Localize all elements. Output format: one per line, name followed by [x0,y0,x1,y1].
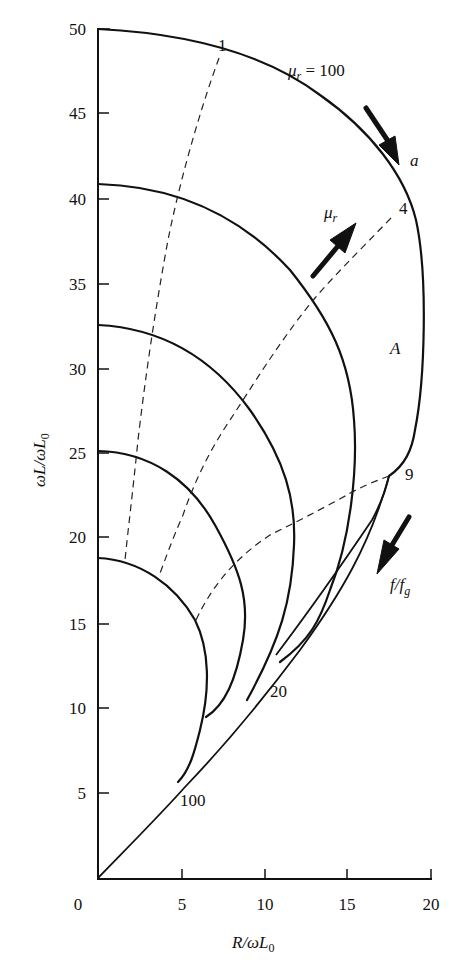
x-tick-label: 5 [178,895,187,914]
y-tick-label: 45 [69,104,86,123]
x-tick-label: 20 [423,895,440,914]
y-tick-label: 30 [69,360,86,379]
label-1: 1 [218,36,227,55]
dashed-f-fg-9 [196,476,389,620]
y-axis-title: ωL/ωL0 [30,433,52,487]
arrow-a [366,108,399,165]
y-tick-label: 40 [69,190,86,209]
y-tick-label: 20 [69,528,86,547]
x-axis-title: R/ωL0 [231,933,275,955]
y-tick-label: 15 [69,615,86,634]
solid-curves [98,29,424,782]
y-tick-label: 10 [69,699,86,718]
y-tick-label: 25 [69,444,86,463]
curve-3 [98,325,294,700]
impedance-chart: 0 5 10 15 20 5 10 15 20 25 30 35 40 45 5… [0,0,463,977]
curve-5 [98,558,207,782]
curve-outer-mu-r-100 [98,29,424,476]
dashed-f-fg-1 [125,58,219,560]
arrow-f-fg-head [377,540,399,574]
arrow-mu-r [313,223,356,276]
curve-2 [98,184,355,662]
label-mu-r-100: μr = 100 [287,61,345,83]
y-tick-label: 35 [69,275,86,294]
y-tick-labels: 5 10 15 20 25 30 35 40 45 50 [69,20,86,803]
label-4: 4 [399,199,408,218]
label-mu-r: μr [323,203,338,225]
label-20: 20 [270,682,287,701]
label-100: 100 [180,791,206,810]
label-A: A [389,339,401,358]
curve-4 [98,451,245,717]
label-a: a [410,151,419,170]
y-tick-label: 50 [69,20,86,39]
y-tick-label: 5 [78,784,87,803]
arrow-f-fg [377,517,409,574]
arrow-mu-r-shaft [313,246,338,276]
label-f-fg: f/fg [390,575,410,598]
label-9: 9 [405,465,414,484]
x-tick-label: 0 [74,895,83,914]
x-tick-label: 15 [339,895,356,914]
arrow-f-fg-shaft [392,517,409,545]
x-tick-labels: 0 5 10 15 20 [74,895,440,914]
axes [97,28,432,879]
dashed-f-fg-4 [159,218,391,576]
x-tick-label: 10 [257,895,274,914]
